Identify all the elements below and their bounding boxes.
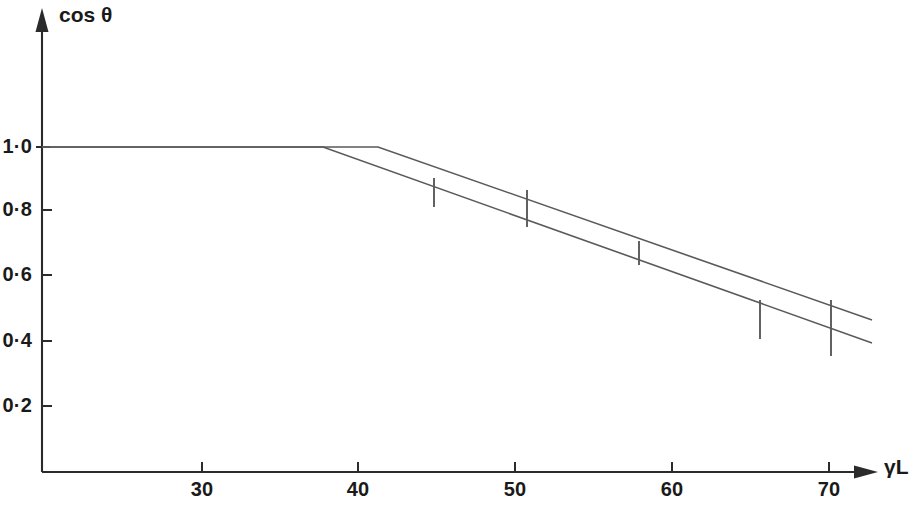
y-tick-label-1-0: 1·0	[0, 135, 32, 158]
x-tick-label-60: 60	[642, 478, 702, 501]
x-axis-title: γL	[884, 455, 909, 479]
x-tick-label-30: 30	[172, 478, 232, 501]
x-tick-label-40: 40	[328, 478, 388, 501]
plot-canvas	[0, 0, 911, 506]
data-line-lower	[42, 147, 872, 343]
y-tick-label-0-8: 0·8	[0, 198, 32, 221]
chart-figure: cos θ γL 1·0 0·8 0·6 0·4 0·2 30 40 50 60…	[0, 0, 911, 506]
y-tick-label-0-6: 0·6	[0, 263, 32, 286]
x-axis-arrow-icon	[854, 466, 878, 479]
y-tick-label-0-2: 0·2	[0, 394, 32, 417]
data-line-upper	[42, 147, 872, 320]
y-axis-arrow-icon	[36, 8, 49, 32]
x-tick-label-70: 70	[799, 478, 859, 501]
y-tick-label-0-4: 0·4	[0, 329, 32, 352]
x-tick-label-50: 50	[485, 478, 545, 501]
y-axis-title: cos θ	[59, 3, 112, 27]
